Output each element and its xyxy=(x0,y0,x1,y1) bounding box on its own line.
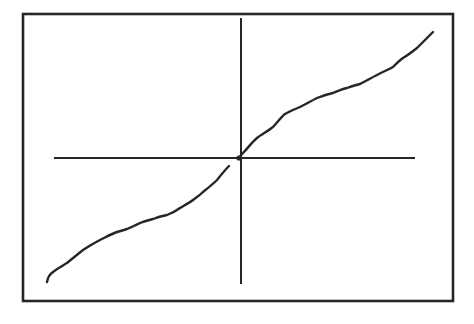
origin-point xyxy=(236,155,241,160)
function-sketch-figure xyxy=(0,0,474,324)
figure-background xyxy=(0,0,474,324)
